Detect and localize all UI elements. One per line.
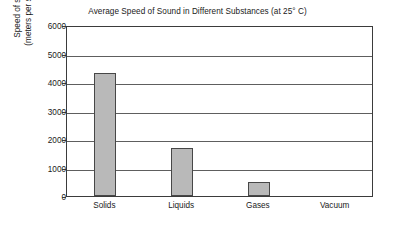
bar-solids[interactable]: [94, 73, 116, 196]
y-axis-title: Speed of sound (meters per second): [12, 0, 38, 74]
x-tick-label-vacuum: Vacuum: [320, 201, 349, 210]
y-tick-mark-6000: [62, 26, 66, 27]
chart-title: Average Speed of Sound in Different Subs…: [0, 7, 395, 16]
y-tick-mark-4000: [62, 83, 66, 84]
y-tick-mark-0: [62, 197, 66, 198]
y-axis-title-line-1: Speed of sound: [12, 0, 23, 74]
x-tick-label-liquids: Liquids: [168, 201, 194, 210]
bar-chart-figure: Average Speed of Sound in Different Subs…: [0, 0, 395, 225]
y-tick-label-5000: 5000: [6, 50, 66, 59]
y-tick-mark-5000: [62, 55, 66, 56]
x-tick-label-gases: Gases: [246, 201, 270, 210]
y-axis-title-line-2: (meters per second): [23, 0, 34, 74]
bar-gases[interactable]: [248, 182, 270, 196]
y-tick-label-2000: 2000: [6, 136, 66, 145]
bar-liquids[interactable]: [171, 148, 193, 196]
plot-area: [66, 26, 373, 197]
gridline-5000: [67, 56, 372, 57]
y-tick-mark-3000: [62, 112, 66, 113]
y-tick-label-3000: 3000: [6, 107, 66, 116]
y-tick-label-1000: 1000: [6, 164, 66, 173]
y-tick-label-4000: 4000: [6, 79, 66, 88]
y-tick-label-0: 0: [6, 193, 66, 202]
y-tick-label-6000: 6000: [6, 22, 66, 31]
y-tick-mark-1000: [62, 169, 66, 170]
y-tick-mark-2000: [62, 140, 66, 141]
x-tick-label-solids: Solids: [93, 201, 115, 210]
